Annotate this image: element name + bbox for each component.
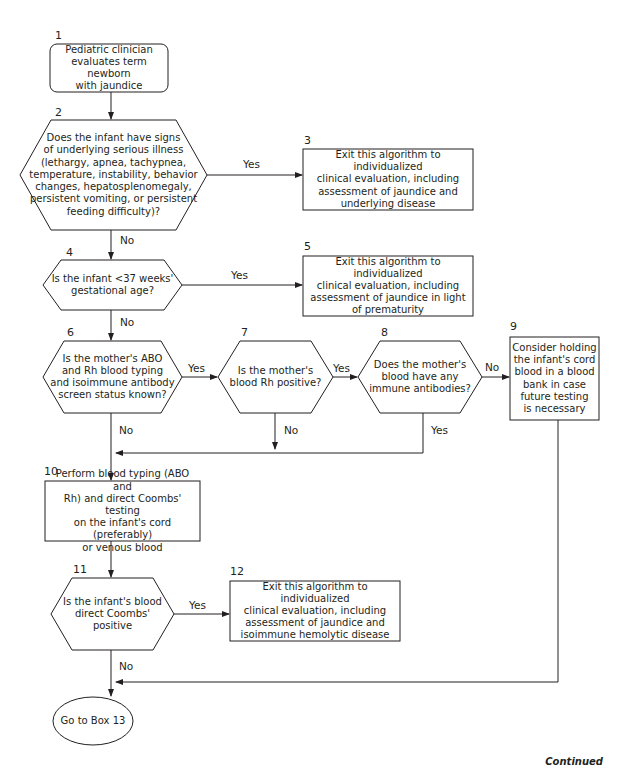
node-8-text: Does the mother's blood have any immune … [362, 341, 478, 413]
node-2-text: Does the infant have signs of underlying… [28, 120, 199, 230]
node-number: 12 [230, 565, 244, 578]
continued-note: Continued [545, 756, 603, 767]
edge-8-merge [116, 413, 423, 453]
node-9-text: Consider holding the infant's cord blood… [510, 337, 599, 420]
node-7-text: Is the mother's blood Rh positive? [222, 341, 329, 413]
edge-label-yes: Yes [231, 269, 248, 281]
edge-label-no: No [284, 424, 298, 436]
edge-label-yes: Yes [243, 158, 260, 170]
edge-label-no: No [485, 361, 499, 373]
node-number: 1 [55, 29, 62, 42]
node-number: 5 [304, 240, 311, 253]
node-13-text: Go to Box 13 [53, 697, 133, 745]
node-11-text: Is the infant's blood direct Coombs' pos… [55, 578, 170, 650]
edge-label-yes: Yes [431, 424, 448, 436]
node-number: 8 [381, 326, 388, 339]
node-number: 9 [510, 320, 517, 333]
node-10-text: Perform blood typing (ABO and Rh) and di… [45, 481, 200, 541]
node-6-text: Is the mother's ABO and Rh blood typing … [50, 341, 175, 413]
node-4-text: Is the infant <37 weeks' gestational age… [50, 260, 175, 310]
node-number: 2 [55, 106, 62, 119]
node-3-text: Exit this algorithm to individualized cl… [303, 149, 473, 210]
edge-label-no: No [120, 316, 134, 328]
edge-label-no: No [119, 660, 133, 672]
edge-label-yes: Yes [188, 362, 205, 374]
node-number: 4 [66, 246, 73, 259]
edge-label-yes: Yes [333, 362, 350, 374]
node-number: 3 [304, 134, 311, 147]
node-number: 6 [67, 326, 74, 339]
edge-label-yes: Yes [189, 599, 206, 611]
node-12-text: Exit this algorithm to individualized cl… [230, 581, 400, 641]
node-number: 7 [241, 326, 248, 339]
node-1-text: Pediatric clinician evaluates term newbo… [50, 44, 168, 92]
edge-label-no: No [120, 234, 134, 246]
node-number: 11 [73, 563, 87, 576]
node-5-text: Exit this algorithm to individualized cl… [303, 256, 473, 316]
edge-label-no: No [119, 424, 133, 436]
